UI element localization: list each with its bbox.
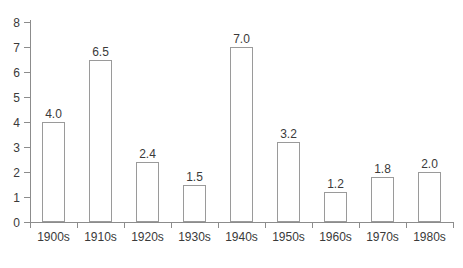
x-axis-category-label: 1900s <box>37 231 70 243</box>
x-axis-category-label: 1950s <box>272 231 305 243</box>
y-axis-tick: 1 <box>24 197 31 198</box>
x-axis-tick <box>453 222 454 228</box>
bar-value-label: 3.2 <box>280 128 297 140</box>
bar: 4.0 <box>42 122 65 222</box>
bar-value-label: 7.0 <box>233 33 250 45</box>
bar: 3.2 <box>277 142 300 222</box>
y-axis-tick-label: 4 <box>13 117 20 129</box>
bar-value-label: 6.5 <box>92 46 109 58</box>
y-axis-tick-label: 6 <box>13 67 20 79</box>
bar-value-label: 4.0 <box>45 108 62 120</box>
bar-value-label: 2.0 <box>421 158 438 170</box>
x-axis-category-label: 1960s <box>319 231 352 243</box>
x-axis-tick <box>359 222 360 228</box>
bar: 7.0 <box>230 47 253 222</box>
x-axis-tick <box>265 222 266 228</box>
bar-value-label: 1.8 <box>374 163 391 175</box>
x-axis-category-label: 1920s <box>131 231 164 243</box>
bar-value-label: 1.2 <box>327 178 344 190</box>
y-axis-tick: 5 <box>24 97 31 98</box>
x-axis-category-label: 1930s <box>178 231 211 243</box>
bar: 1.8 <box>371 177 394 222</box>
y-axis-tick-label: 7 <box>13 42 20 54</box>
y-axis-tick: 7 <box>24 47 31 48</box>
y-axis-tick-label: 2 <box>13 167 20 179</box>
x-axis-tick <box>406 222 407 228</box>
bar: 2.0 <box>418 172 441 222</box>
x-axis-tick <box>171 222 172 228</box>
x-axis-tick <box>30 222 31 228</box>
x-axis-tick <box>77 222 78 228</box>
y-axis-tick: 6 <box>24 72 31 73</box>
bar-chart: 012345678 4.06.52.41.57.03.21.21.82.0 19… <box>0 0 463 268</box>
y-axis-tick: 3 <box>24 147 31 148</box>
y-axis-tick: 4 <box>24 122 31 123</box>
bar: 2.4 <box>136 162 159 222</box>
y-axis-tick-label: 3 <box>13 142 20 154</box>
y-axis-tick-label: 1 <box>13 192 20 204</box>
y-axis-tick: 2 <box>24 172 31 173</box>
y-axis-tick-label: 0 <box>13 217 20 229</box>
y-axis-tick-label: 8 <box>13 17 20 29</box>
x-axis-tick <box>312 222 313 228</box>
bar-value-label: 1.5 <box>186 171 203 183</box>
x-axis-line <box>30 222 453 223</box>
x-axis-tick <box>124 222 125 228</box>
bar: 6.5 <box>89 60 112 223</box>
x-axis-category-label: 1970s <box>366 231 399 243</box>
bar-value-label: 2.4 <box>139 148 156 160</box>
y-axis-tick: 8 <box>24 22 31 23</box>
bar: 1.2 <box>324 192 347 222</box>
y-axis-tick-label: 5 <box>13 92 20 104</box>
x-axis-category-label: 1910s <box>84 231 117 243</box>
x-axis-category-label: 1940s <box>225 231 258 243</box>
x-axis-category-label: 1980s <box>413 231 446 243</box>
bar: 1.5 <box>183 185 206 223</box>
x-axis-tick <box>218 222 219 228</box>
